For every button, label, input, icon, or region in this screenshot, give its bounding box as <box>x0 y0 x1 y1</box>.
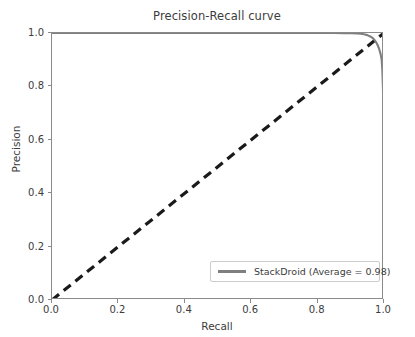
plot-area <box>51 32 383 299</box>
x-tick-mark <box>117 299 118 303</box>
chart-legend: StackDroid (Average = 0.98) <box>210 261 380 282</box>
x-tick-mark <box>184 299 185 303</box>
x-tick-label: 1.0 <box>375 304 391 315</box>
y-tick-label: 0.2 <box>28 240 44 251</box>
y-tick-label: 0.0 <box>28 294 44 305</box>
y-axis-label: Precision <box>10 109 22 189</box>
plot-svg <box>52 33 383 299</box>
chart-figure: Precision-Recall curve 0.00.20.40.60.81.… <box>0 0 415 337</box>
x-tick-label: 0.2 <box>109 304 125 315</box>
y-tick-mark <box>48 192 52 193</box>
x-tick-mark <box>383 299 384 303</box>
y-tick-label: 0.6 <box>28 133 44 144</box>
x-tick-label: 0.6 <box>242 304 258 315</box>
legend-label: StackDroid (Average = 0.98) <box>254 266 390 277</box>
y-tick-mark <box>48 85 52 86</box>
y-tick-label: 0.4 <box>28 187 44 198</box>
x-tick-label: 0.4 <box>176 304 192 315</box>
precision-recall-curve <box>52 33 383 172</box>
baseline-dashed-line <box>52 33 383 299</box>
x-tick-label: 0.0 <box>43 304 59 315</box>
y-tick-label: 0.8 <box>28 80 44 91</box>
y-tick-mark <box>48 139 52 140</box>
x-tick-mark <box>317 299 318 303</box>
chart-title: Precision-Recall curve <box>51 9 383 23</box>
x-tick-label: 0.8 <box>309 304 325 315</box>
y-tick-mark <box>48 32 52 33</box>
x-tick-mark <box>250 299 251 303</box>
y-tick-mark <box>48 246 52 247</box>
legend-line-swatch <box>218 270 246 273</box>
x-axis-label: Recall <box>51 320 383 332</box>
x-tick-mark <box>51 299 52 303</box>
y-tick-label: 1.0 <box>28 27 44 38</box>
